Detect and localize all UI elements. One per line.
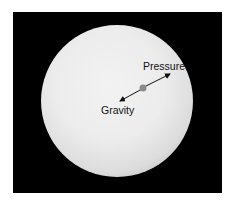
gravity-label: Gravity bbox=[101, 104, 134, 116]
diagram-panel: Pressure Gravity bbox=[13, 12, 222, 193]
pressure-arrow bbox=[144, 74, 170, 87]
gravity-arrow bbox=[120, 89, 142, 101]
gas-particle bbox=[140, 85, 147, 92]
force-arrows bbox=[13, 12, 222, 193]
pressure-label: Pressure bbox=[143, 60, 185, 72]
